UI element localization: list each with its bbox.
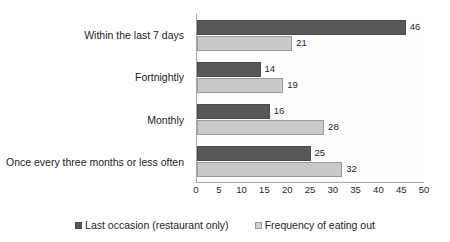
bar-group: 1628 [197, 98, 424, 140]
axis-tick-label: 15 [259, 184, 270, 195]
bar[interactable] [197, 36, 292, 51]
bar[interactable] [197, 78, 283, 93]
axis-tick-label: 0 [193, 184, 198, 195]
category-axis: Within the last 7 daysFortnightlyMonthly… [0, 14, 190, 183]
legend-item[interactable]: Frequency of eating out [255, 219, 375, 231]
bar[interactable] [197, 62, 261, 77]
bar-row: 21 [197, 36, 424, 51]
bar-row: 25 [197, 146, 424, 161]
bar-value-label: 16 [274, 106, 285, 116]
bar-value-label: 14 [265, 64, 276, 74]
bar-row: 19 [197, 78, 424, 93]
legend-swatch-icon [255, 222, 262, 229]
bar-value-label: 19 [287, 80, 298, 90]
bar-row: 16 [197, 104, 424, 119]
bar-group: 4621 [197, 14, 424, 56]
bar-value-label: 46 [410, 22, 421, 32]
axis-tick-label: 45 [396, 184, 407, 195]
bar-row: 46 [197, 20, 424, 35]
category-label: Once every three months or less often [0, 141, 190, 183]
category-label: Within the last 7 days [0, 14, 190, 56]
bar[interactable] [197, 120, 324, 135]
legend-item[interactable]: Last occasion (restaurant only) [75, 219, 229, 231]
chart-legend: Last occasion (restaurant only)Frequency… [0, 219, 450, 231]
bar-row: 32 [197, 162, 424, 177]
bar[interactable] [197, 146, 311, 161]
axis-tick-label: 40 [373, 184, 384, 195]
bar[interactable] [197, 104, 270, 119]
bar[interactable] [197, 20, 406, 35]
bar-group: 1419 [197, 56, 424, 98]
bar-group: 2532 [197, 140, 424, 182]
value-axis: 05101520253035404550 [196, 184, 424, 198]
category-label: Fortnightly [0, 56, 190, 98]
axis-tick-label: 25 [305, 184, 316, 195]
axis-tick-label: 50 [419, 184, 430, 195]
bar-chart: Within the last 7 daysFortnightlyMonthly… [0, 0, 450, 242]
legend-swatch-icon [75, 222, 82, 229]
legend-label: Frequency of eating out [265, 219, 375, 231]
bar-value-label: 21 [296, 38, 307, 48]
axis-tick-label: 5 [216, 184, 221, 195]
axis-tick-label: 10 [236, 184, 247, 195]
bar[interactable] [197, 162, 342, 177]
bar-value-label: 28 [328, 122, 339, 132]
category-label: Monthly [0, 99, 190, 141]
bar-row: 14 [197, 62, 424, 77]
legend-label: Last occasion (restaurant only) [85, 219, 229, 231]
bar-value-label: 25 [315, 148, 326, 158]
axis-tick-label: 30 [328, 184, 339, 195]
bar-row: 28 [197, 120, 424, 135]
axis-tick-label: 20 [282, 184, 293, 195]
bar-value-label: 32 [346, 164, 357, 174]
axis-tick-label: 35 [350, 184, 361, 195]
plot-area: 4621141916282532 [196, 14, 424, 183]
